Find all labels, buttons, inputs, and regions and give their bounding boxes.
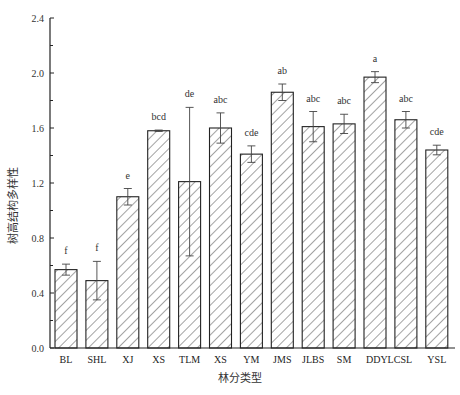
- significance-letter: ab: [278, 65, 287, 76]
- bar-chart: 0.00.40.81.21.62.02.4 ffebcddeabccdeabab…: [0, 0, 460, 395]
- bar: de: [179, 88, 201, 348]
- category-label: SM: [337, 354, 352, 365]
- category-label: XS: [214, 354, 227, 365]
- x-axis: BLSHLXJXSTLMXSYMJMSJLBSSMDDYLCSLYSL: [50, 348, 455, 365]
- y-axis: 0.00.40.81.21.62.02.4: [32, 13, 55, 354]
- category-label: BL: [60, 354, 73, 365]
- category-label: SHL: [87, 354, 106, 365]
- significance-letter: abc: [399, 93, 413, 104]
- y-tick-label: 1.6: [32, 123, 45, 134]
- category-label: YM: [243, 354, 259, 365]
- bar: abc: [210, 94, 232, 348]
- y-tick-label: 2.0: [32, 68, 45, 79]
- bar: bcd: [148, 111, 170, 348]
- significance-letter: abc: [306, 93, 320, 104]
- bar: abc: [302, 93, 324, 349]
- significance-letter: e: [126, 170, 131, 181]
- y-tick-label: 1.2: [32, 178, 45, 189]
- y-tick-label: 0.8: [32, 233, 45, 244]
- category-label: XS: [152, 354, 165, 365]
- bar: a: [364, 53, 386, 348]
- significance-letter: f: [64, 245, 68, 256]
- significance-letter: de: [185, 88, 195, 99]
- category-label: JMS: [273, 354, 291, 365]
- bar: f: [86, 242, 108, 348]
- bar: cde: [426, 126, 448, 348]
- significance-letter: cde: [430, 126, 444, 137]
- category-label: JLBS: [302, 354, 324, 365]
- bar: ab: [271, 65, 293, 348]
- significance-letter: bcd: [151, 111, 165, 122]
- y-tick-label: 0.4: [32, 288, 45, 299]
- significance-letter: a: [373, 53, 378, 64]
- significance-letter: abc: [214, 94, 228, 105]
- category-label: TLM: [179, 354, 200, 365]
- y-axis-title: 树高结构多样性: [6, 167, 19, 244]
- bar: e: [117, 170, 139, 349]
- category-label: XJ: [122, 354, 133, 365]
- significance-letter: f: [95, 242, 99, 253]
- category-label: YSL: [427, 354, 446, 365]
- y-tick-label: 2.4: [32, 13, 45, 24]
- category-label: DDYLCSL: [366, 354, 412, 365]
- bars: ffebcddeabccdeababcabcaabccde: [55, 53, 448, 348]
- bar: abc: [333, 95, 355, 348]
- bar: abc: [395, 93, 417, 349]
- bar: f: [55, 245, 77, 348]
- significance-letter: abc: [337, 95, 351, 106]
- significance-letter: cde: [244, 127, 258, 138]
- y-tick-label: 0.0: [32, 343, 45, 354]
- x-axis-title: 林分类型: [218, 371, 262, 384]
- bar: cde: [240, 127, 262, 348]
